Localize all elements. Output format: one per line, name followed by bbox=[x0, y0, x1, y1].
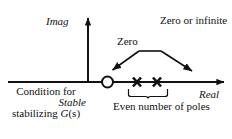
zero-or-infinite-line-1: Zero or bbox=[160, 14, 193, 26]
even-number-of-poles-label: Even number of poles bbox=[113, 101, 187, 112]
zero-marker bbox=[102, 77, 113, 88]
zero-callout-arrow bbox=[113, 51, 140, 70]
real-axis-label: Real bbox=[199, 89, 219, 100]
zero-or-infinite-callout-arrow bbox=[161, 51, 192, 71]
even-number-line-2: of poles bbox=[175, 100, 210, 112]
zero-annotation-label: Zero bbox=[117, 36, 138, 47]
zero-or-infinite-line-2: infinite bbox=[195, 14, 227, 26]
note-line-3: stabilizing G(s) bbox=[4, 108, 88, 119]
imag-axis-label: Imag bbox=[46, 16, 69, 27]
pole-zero-diagram: Imag Real Zero Zero or infinite Even num… bbox=[0, 0, 232, 139]
note-line-3-prefix: stabilizing bbox=[12, 107, 61, 119]
zero-or-infinite-annotation-label: Zero or infinite bbox=[160, 15, 212, 26]
pole-group-brace bbox=[129, 89, 168, 99]
even-number-line-1: Even number bbox=[113, 100, 172, 112]
stability-condition-note: Condition for Stable stabilizing G(s) bbox=[4, 86, 88, 120]
note-line-3-suffix: (s) bbox=[68, 107, 80, 119]
